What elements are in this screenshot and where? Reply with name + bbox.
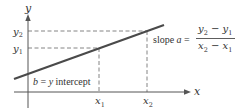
x1-label: x1 bbox=[95, 95, 105, 109]
y1-label: y1 bbox=[12, 43, 23, 57]
y-axis-arrow-icon bbox=[25, 14, 30, 21]
y2-label: y2 bbox=[12, 26, 23, 40]
x2-label: x2 bbox=[143, 95, 153, 109]
slope-numerator: y2 − y1 bbox=[197, 23, 232, 37]
y-axis-label: y bbox=[24, 2, 32, 15]
linear-function-diagram: y x y2 y1 x1 x2 b = y intercept slope a … bbox=[0, 0, 239, 112]
intercept-annotation: b = y intercept bbox=[33, 76, 91, 87]
slope-label: slope a = bbox=[153, 34, 190, 45]
function-line bbox=[14, 25, 164, 79]
x-axis-arrow-icon bbox=[184, 89, 191, 94]
x-axis-label: x bbox=[194, 85, 201, 98]
slope-denominator: x2 − x1 bbox=[198, 40, 232, 54]
diagram-svg: y x y2 y1 x1 x2 b = y intercept slope a … bbox=[0, 0, 239, 112]
